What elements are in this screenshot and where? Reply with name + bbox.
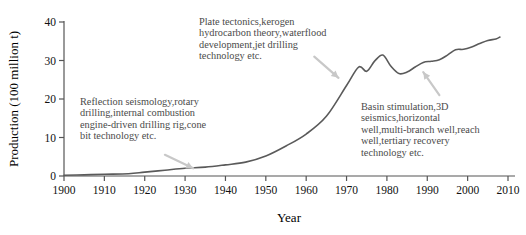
x-tick-label: 1940 <box>214 184 237 196</box>
x-axis-ticks: 1900191019201930194019501960197019801990… <box>53 176 520 196</box>
x-tick-label: 1910 <box>93 184 116 196</box>
production-line-chart: 010203040 190019101920193019401950196019… <box>0 0 526 235</box>
y-tick-label: 20 <box>45 93 57 105</box>
annotation-early-technology: Reflection seismology,rotary drilling,in… <box>80 96 240 142</box>
x-axis-title: Year <box>277 210 302 225</box>
annotation-mid-technology: Plate tectonics,kerogen hydrocarbon theo… <box>199 16 349 62</box>
x-tick-label: 1920 <box>133 184 156 196</box>
y-tick-label: 0 <box>50 170 56 182</box>
y-axis-title: Production (100 million t) <box>6 31 21 167</box>
x-tick-label: 1950 <box>254 184 277 196</box>
y-tick-label: 40 <box>45 16 57 28</box>
x-tick-label: 2000 <box>456 184 479 196</box>
x-tick-label: 1980 <box>375 184 398 196</box>
x-tick-label: 1970 <box>335 184 358 196</box>
x-tick-label: 1900 <box>53 184 76 196</box>
x-tick-label: 1930 <box>174 184 197 196</box>
x-tick-label: 1960 <box>295 184 318 196</box>
y-tick-label: 30 <box>45 55 57 67</box>
x-tick-label: 2010 <box>497 184 520 196</box>
y-tick-label: 10 <box>45 132 57 144</box>
x-tick-label: 1990 <box>416 184 439 196</box>
y-axis-ticks: 010203040 <box>45 16 65 182</box>
annotation-late-technology: Basin stimulation,3D seismics,horizontal… <box>361 101 516 158</box>
